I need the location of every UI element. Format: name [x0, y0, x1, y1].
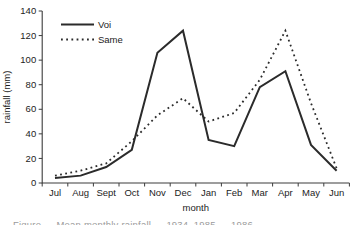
y-axis-tick-label: 60	[26, 103, 37, 114]
month-label: Mar	[252, 187, 268, 198]
figure-page: 020406080100120140JulAugSeptOctNovDecJan…	[0, 0, 361, 225]
rainfall-chart: 020406080100120140JulAugSeptOctNovDecJan…	[0, 0, 361, 225]
month-label: Nov	[149, 187, 166, 198]
y-axis-tick-label: 40	[26, 128, 37, 139]
y-axis-tick-label: 0	[31, 177, 36, 188]
month-label: Sept	[96, 187, 116, 198]
y-axis-tick-label: 20	[26, 153, 37, 164]
y-axis-tick-label: 100	[20, 54, 36, 65]
month-label: Aug	[72, 187, 89, 198]
y-axis-tick-label: 140	[20, 5, 36, 16]
month-label: Jul	[49, 187, 61, 198]
legend-same-label: Same	[98, 34, 123, 45]
month-label: May	[302, 187, 320, 198]
month-label: Jan	[201, 187, 216, 198]
voi-series-line	[55, 31, 337, 178]
figure-caption-clipped: Figure — Mean monthly rainfall … 1934–19…	[13, 219, 358, 225]
y-axis-tick-label: 120	[20, 30, 36, 41]
month-label: Feb	[226, 187, 242, 198]
x-axis-title: month	[183, 202, 209, 213]
y-axis-tick-label: 80	[26, 79, 37, 90]
y-axis-title: rainfall (mm)	[1, 71, 12, 124]
axes	[42, 11, 349, 183]
month-label: Dec	[175, 187, 192, 198]
month-label: Jun	[329, 187, 344, 198]
rainfall-line-chart: 020406080100120140JulAugSeptOctNovDecJan…	[0, 0, 361, 225]
legend-voi-label: Voi	[98, 19, 111, 30]
month-label: Apr	[278, 187, 293, 198]
same-series-line	[55, 31, 337, 176]
month-label: Oct	[124, 187, 139, 198]
